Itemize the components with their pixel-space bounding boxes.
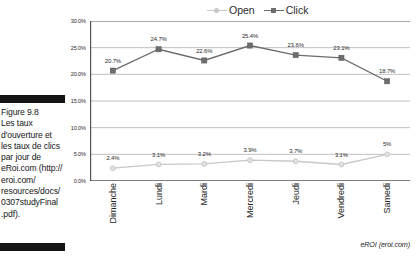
data-point-open [156,162,161,167]
data-point-open [110,166,115,171]
point-label-open: 3.1% [335,152,348,158]
point-label-open: 3.9% [243,147,256,153]
y-axis: 30.0%25.0%20.0%15.0%10.0%5.0%0.0% [62,21,89,181]
plot-area: 2.4%3.1%3.2%3.9%3.7%3.1%5%20.7%24.7%22.6… [90,21,410,181]
x-tick-label-mardi: Mardi [199,183,209,206]
legend-marker-click-icon [264,6,284,15]
chart-source-note: eROI (eroi.com) [360,240,410,249]
x-tick-label-jeudi: Jeudi [291,183,301,205]
legend-marker-open-icon [207,6,227,15]
x-tick-label-lundi: Lundi [154,183,164,205]
data-point-click [247,43,252,48]
data-point-click [293,53,298,58]
y-tick-label: 20.0% [71,71,86,77]
series-line-click [113,46,387,82]
y-tick-label: 10.0% [71,125,86,131]
x-tick-label-dimanche: Dimanche [108,183,118,224]
caption-rule-top [0,95,65,103]
x-tick-label-vendredi: Vendredi [336,183,346,219]
chart-legend: Open Click [207,3,308,17]
data-point-open [293,159,298,164]
plot-canvas [90,21,410,181]
data-point-open [248,158,253,163]
point-label-open: 5% [383,141,391,147]
y-tick-label: 30.0% [71,18,86,24]
legend-item-click[interactable]: Click [264,4,309,16]
data-point-click [110,68,115,73]
point-label-click: 18.7% [379,68,395,74]
y-tick-label: 5.0% [74,151,86,157]
point-label-click: 20.7% [105,58,121,64]
y-tick-label: 25.0% [71,45,86,51]
point-label-click: 23.6% [288,42,304,48]
point-label-open: 2.4% [106,155,119,161]
x-axis: DimancheLundiMardiMercrediJeudiVendrediS… [90,183,410,239]
point-label-open: 3.7% [289,148,302,154]
data-point-click [385,79,390,84]
data-point-open [385,152,390,157]
caption-rule-bottom [0,243,65,251]
data-point-click [339,55,344,60]
point-label-click: 23.1% [333,45,349,51]
data-point-open [202,162,207,167]
point-label-click: 25.4% [242,33,258,39]
data-point-click [202,58,207,63]
data-point-open [339,162,344,167]
legend-label-click: Click [286,4,309,16]
point-label-click: 24.7% [150,36,166,42]
line-chart: Open Click 30.0%25.0%20.0%15.0%10.0%5.0%… [62,0,419,265]
point-label-click: 22.6% [196,48,212,54]
legend-label-open: Open [229,4,255,16]
legend-item-open[interactable]: Open [207,4,255,16]
data-point-click [156,47,161,52]
point-label-open: 3.1% [152,152,165,158]
x-tick-label-samedi: Samedi [382,183,392,214]
point-label-open: 3.2% [198,151,211,157]
x-tick-label-mercredi: Mercredi [245,183,255,218]
y-tick-label: 0.0% [74,178,86,184]
y-tick-label: 15.0% [71,98,86,104]
